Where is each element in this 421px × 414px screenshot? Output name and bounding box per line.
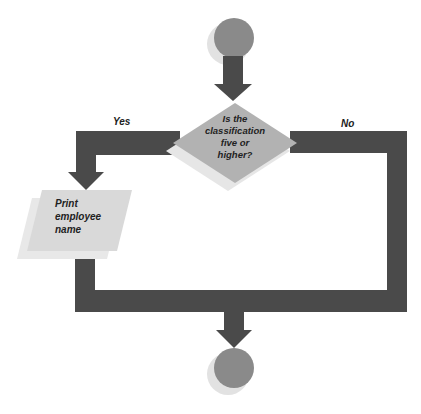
connector-yes-branch: [68, 131, 180, 190]
print-io-text-line: employee: [55, 210, 125, 223]
print-io-text-line: name: [55, 223, 125, 236]
decision-text: Is the classification five or higher?: [188, 113, 282, 161]
connector-merge: [75, 250, 407, 348]
print-io-text-line: Print: [55, 197, 125, 210]
decision-text-line: Is the: [188, 113, 282, 125]
decision-text-line: higher?: [188, 149, 282, 161]
start-terminal: [214, 18, 254, 58]
decision-text-line: classification: [188, 125, 282, 137]
end-terminal: [214, 348, 254, 388]
yes-branch-label: Yes: [113, 116, 130, 127]
decision-text-line: five or: [188, 137, 282, 149]
print-io-text: Print employee name: [55, 197, 125, 236]
no-branch-label: No: [341, 118, 354, 129]
connector-no-branch: [290, 131, 407, 312]
